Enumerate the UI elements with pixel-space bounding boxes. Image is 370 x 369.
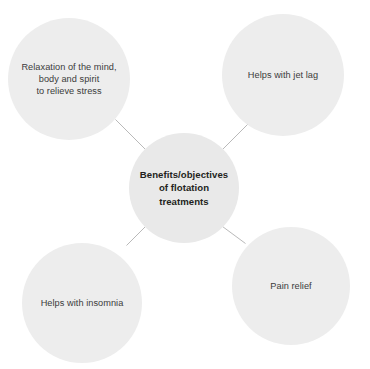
connector-center-to-pain xyxy=(223,227,246,244)
diagram-node-pain-label: Pain relief xyxy=(264,280,317,292)
diagram-node-center-label: Benefits/objectives of flotation treatme… xyxy=(134,168,234,207)
diagram-node-relaxation[interactable]: Relaxation of the mind, body and spirit … xyxy=(8,18,130,140)
diagram-node-insomnia-label: Helps with insomnia xyxy=(35,297,130,309)
diagram-node-insomnia[interactable]: Helps with insomnia xyxy=(22,243,142,363)
diagram-node-jetlag[interactable]: Helps with jet lag xyxy=(222,14,344,136)
diagram-node-jetlag-label: Helps with jet lag xyxy=(242,69,324,81)
diagram-node-relaxation-label: Relaxation of the mind, body and spirit … xyxy=(15,61,122,97)
connector-center-to-insomnia xyxy=(127,227,146,246)
diagram-node-pain[interactable]: Pain relief xyxy=(232,227,350,345)
diagram-node-center[interactable]: Benefits/objectives of flotation treatme… xyxy=(129,133,239,243)
diagram-canvas: Relaxation of the mind, body and spirit … xyxy=(0,0,370,369)
connector-center-to-relaxation xyxy=(116,120,146,150)
